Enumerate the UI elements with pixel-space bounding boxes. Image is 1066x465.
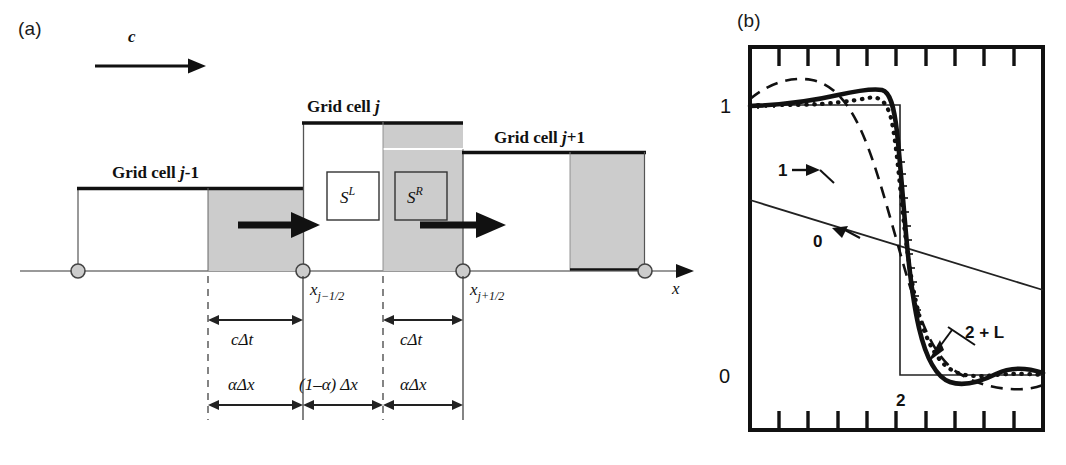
y-tick-label-1: 1 [720, 95, 731, 117]
annotation-scheme-0-label: 0 [813, 232, 822, 251]
state-box-left: SL [327, 172, 379, 220]
velocity-label: c [128, 27, 136, 46]
shaded-region-j-minus-1 [208, 188, 303, 271]
velocity-arrow [95, 59, 206, 74]
dimension-adx-left [208, 400, 303, 410]
node-left-end [71, 264, 85, 278]
grid-cell-j-minus-1 [77, 188, 303, 271]
node-x-j-minus-half [296, 264, 310, 278]
dimension-cdt-left [208, 315, 303, 325]
x-j-minus-half-label: xj−1/2 [309, 280, 344, 303]
grid-cell-j-label: Grid cell j [307, 97, 380, 116]
dimension-adx-left-label: αΔx [228, 375, 255, 394]
dimension-adx-right-label: αΔx [400, 375, 427, 394]
annotation-scheme-2-label: 2 [896, 391, 905, 410]
shaded-region-j-plus-1 [570, 152, 645, 271]
dimension-one-minus-adx-label: (1–α) Δx [299, 375, 358, 394]
grid-cell-j-plus-1-label: Grid cell j+1 [494, 128, 585, 147]
y-tick-label-0: 0 [719, 365, 730, 387]
grid-cell-j-minus-1-label: Grid cell j-1 [112, 163, 199, 182]
dimension-cdt-right [383, 315, 463, 325]
panel-b-group: 1 0 [719, 47, 1043, 430]
dimension-cdt-left-label: cΔt [231, 330, 255, 349]
x-axis-label: x [671, 279, 680, 298]
node-right-end [638, 264, 652, 278]
panel-a-group: c x Grid cell j-1 [20, 27, 694, 420]
figure-canvas: c x Grid cell j-1 [0, 0, 1066, 465]
state-box-right: SR [395, 172, 447, 220]
x-j-plus-half-label: xj+1/2 [469, 280, 504, 303]
dimension-adx-right [383, 400, 463, 410]
grid-cell-j-plus-1 [462, 152, 646, 271]
dimension-one-minus-adx [303, 400, 383, 410]
annotation-scheme-2-plus-L-label: 2 + L [965, 323, 1004, 342]
dimension-cdt-right-label: cΔt [400, 330, 424, 349]
node-x-j-plus-half [456, 264, 470, 278]
annotation-scheme-1-label: 1 [778, 161, 787, 180]
figure-root: (a) (b) c x [0, 0, 1066, 465]
x-axis-arrowhead [676, 264, 694, 278]
